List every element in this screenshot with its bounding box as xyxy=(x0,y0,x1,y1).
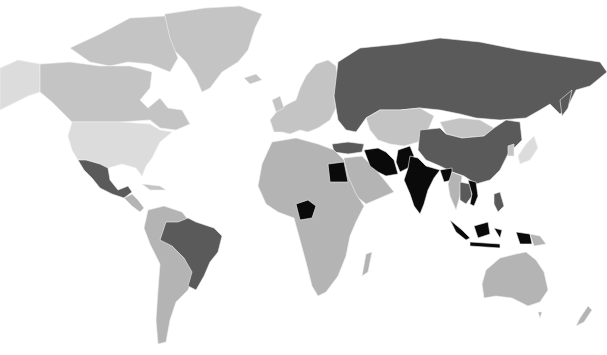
region-philippines[interactable] xyxy=(494,192,504,212)
region-new-zealand[interactable] xyxy=(576,306,592,326)
region-turkey[interactable] xyxy=(332,142,364,154)
region-caribbean[interactable] xyxy=(142,184,166,190)
region-papua-new-guinea[interactable] xyxy=(530,234,546,246)
region-canada[interactable] xyxy=(40,62,190,130)
region-iceland[interactable] xyxy=(244,74,262,84)
world-map xyxy=(0,0,607,355)
region-alaska[interactable] xyxy=(0,60,40,110)
region-india[interactable] xyxy=(404,156,440,214)
region-australia[interactable] xyxy=(482,252,548,306)
region-madagascar[interactable] xyxy=(362,252,372,276)
region-canada-arctic[interactable] xyxy=(70,16,178,72)
region-indonesia[interactable] xyxy=(450,220,532,248)
region-tasmania[interactable] xyxy=(538,312,542,318)
region-central-america[interactable] xyxy=(124,194,144,212)
region-korea[interactable] xyxy=(508,144,514,156)
